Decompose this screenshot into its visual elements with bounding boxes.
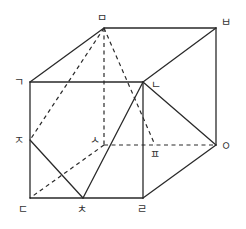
vertex-labels: ㅁ ㅂ ㄱ ㄴ ㅈ ㅅ ㅍ ㅇ ㄷ ㅊ ㄹ [14, 12, 231, 216]
edge-g-m [30, 28, 104, 82]
cube-diagram: ㅁ ㅂ ㄱ ㄴ ㅈ ㅅ ㅍ ㅇ ㄷ ㅊ ㄹ [0, 0, 246, 229]
vertex-label-m: ㅁ [97, 12, 107, 25]
vertex-label-s: ㅅ [90, 134, 100, 147]
vertex-label-b: ㅂ [221, 16, 231, 29]
hidden-edges [30, 28, 216, 198]
vertex-label-j: ㅈ [14, 134, 24, 147]
vertex-label-r: ㄹ [137, 203, 147, 216]
vertex-label-ch: ㅊ [77, 203, 87, 216]
visible-edges [30, 28, 216, 198]
edge-j-ch [30, 140, 83, 198]
vertex-label-p: ㅍ [150, 148, 160, 161]
vertex-label-g: ㄱ [14, 76, 24, 89]
vertex-label-d: ㄷ [18, 203, 28, 216]
edge-n-b [143, 28, 216, 82]
vertex-label-n: ㄴ [151, 79, 161, 92]
vertex-label-o: ㅇ [221, 140, 231, 153]
edge-m-j [30, 28, 104, 140]
